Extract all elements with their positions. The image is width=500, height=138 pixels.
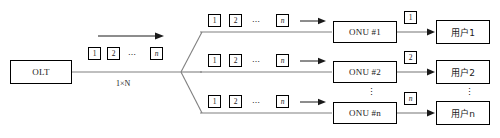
onu-column-vertical-ellipsis: ⋮ bbox=[358, 88, 372, 97]
onu-label-3: ONU #n bbox=[349, 108, 381, 118]
onu-label-1: ONU #1 bbox=[349, 27, 381, 37]
flow-direction-arrowhead bbox=[155, 33, 164, 40]
olt-label: OLT bbox=[32, 67, 49, 77]
pon-network-diagram: OLT 1×N 1 2 ⋯ n 1 2 ⋯ n ONU #1 1 用户1 1 2 bbox=[0, 0, 500, 138]
splitter-ratio-label: 1×N bbox=[116, 80, 130, 88]
trunk-packet-n: n bbox=[150, 47, 163, 60]
branch-1-packet-ellipsis: ⋯ bbox=[252, 18, 261, 26]
olt-box[interactable]: OLT bbox=[10, 60, 72, 84]
branch-3-packet-2: 2 bbox=[229, 95, 242, 108]
branch-flow-arrowhead-1 bbox=[318, 18, 326, 24]
trunk-packet-1: 1 bbox=[88, 47, 101, 60]
onu-box-3[interactable]: ONU #n bbox=[333, 102, 397, 124]
onu-box-1[interactable]: ONU #1 bbox=[333, 21, 397, 43]
onu-label-2: ONU #2 bbox=[349, 67, 381, 77]
drop-packet-2: 2 bbox=[404, 51, 417, 64]
drop-packet-1: 1 bbox=[404, 11, 417, 24]
user-label-1: 用户1 bbox=[451, 26, 475, 39]
drop-packet-3: n bbox=[404, 92, 417, 105]
branch-1-packet-n: n bbox=[276, 14, 289, 27]
diagram-wires bbox=[0, 0, 500, 138]
drop-arrowhead-3 bbox=[427, 110, 435, 117]
drop-arrowhead-1 bbox=[427, 29, 435, 36]
trunk-packet-ellipsis: ⋯ bbox=[128, 51, 137, 59]
trunk-packet-2: 2 bbox=[107, 47, 120, 60]
user-box-3[interactable]: 用户n bbox=[436, 101, 490, 125]
user-label-2: 用户2 bbox=[451, 66, 475, 79]
user-box-1[interactable]: 用户1 bbox=[436, 20, 490, 44]
branch-2-packet-n: n bbox=[276, 54, 289, 67]
onu-box-2[interactable]: ONU #2 bbox=[333, 61, 397, 83]
drop-arrowhead-2 bbox=[427, 69, 435, 76]
user-column-vertical-ellipsis: ⋮ bbox=[456, 88, 470, 97]
splitter-branch-top bbox=[181, 32, 202, 72]
user-label-3: 用户n bbox=[451, 107, 475, 120]
branch-flow-arrowhead-3 bbox=[318, 99, 326, 105]
splitter-branch-bottom bbox=[181, 72, 202, 113]
branch-1-packet-1: 1 bbox=[208, 14, 221, 27]
branch-1-packet-2: 2 bbox=[229, 14, 242, 27]
branch-3-packet-n: n bbox=[276, 95, 289, 108]
branch-flow-arrowhead-2 bbox=[318, 58, 326, 64]
branch-3-packet-ellipsis: ⋯ bbox=[252, 99, 261, 107]
branch-3-packet-1: 1 bbox=[208, 95, 221, 108]
branch-2-packet-1: 1 bbox=[208, 54, 221, 67]
user-box-2[interactable]: 用户2 bbox=[436, 60, 490, 84]
branch-2-packet-2: 2 bbox=[229, 54, 242, 67]
branch-2-packet-ellipsis: ⋯ bbox=[252, 58, 261, 66]
